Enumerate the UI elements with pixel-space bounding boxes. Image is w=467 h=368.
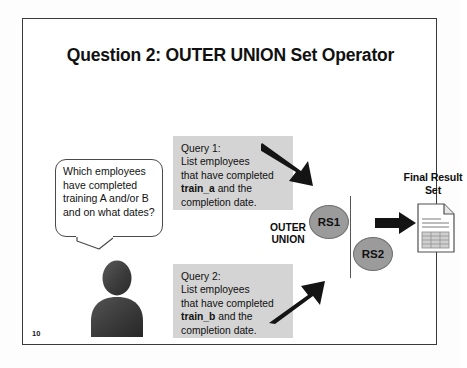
arrow-query2-to-rs2-icon — [268, 277, 326, 325]
arrow-query1-to-rs1-icon — [261, 141, 319, 189]
user-avatar-silhouette-icon — [85, 259, 149, 337]
user-question-text: Which employees have completed training … — [63, 165, 159, 219]
vertical-divider — [350, 196, 351, 278]
document-table-icon — [417, 203, 455, 253]
final-result-line-2: Set — [391, 184, 467, 197]
speech-bubble-tail-icon — [75, 235, 115, 257]
final-result-line-1: Final Result — [391, 171, 467, 184]
result-set-2-node: RS2 — [353, 237, 393, 271]
query-2-line-4: completion date. — [181, 324, 286, 337]
final-result-set-label: Final Result Set — [391, 171, 467, 196]
slide-frame: Question 2: OUTER UNION Set Operator Whi… — [22, 18, 437, 345]
outer-union-line-2: UNION — [257, 234, 319, 246]
user-question-bubble: Which employees have completed training … — [55, 159, 163, 237]
query-1-term: train_a — [181, 183, 215, 194]
query-1-line-4: completion date. — [181, 196, 286, 209]
result-set-1-node: RS1 — [309, 205, 349, 239]
arrow-rs-to-final-icon — [375, 211, 417, 235]
page-title: Question 2: OUTER UNION Set Operator — [23, 45, 438, 66]
query-2-term: train_b — [181, 311, 215, 322]
query-2-line-3-suffix: and the — [215, 311, 252, 322]
query-1-line-3-suffix: and the — [215, 183, 252, 194]
slide-number: 10 — [32, 329, 40, 338]
